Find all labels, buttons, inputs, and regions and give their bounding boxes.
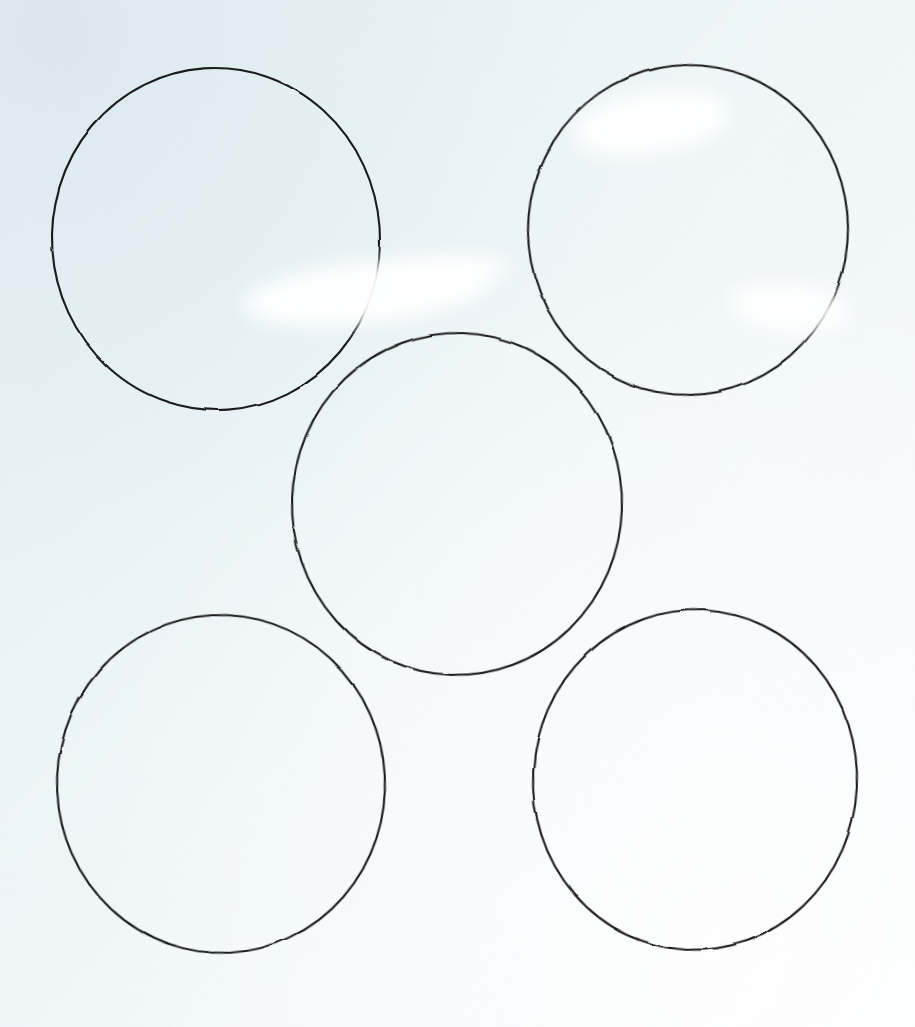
- circles-drawing: [0, 0, 915, 1027]
- paper-sheet: [0, 0, 915, 1027]
- paper-grain: [0, 0, 915, 1027]
